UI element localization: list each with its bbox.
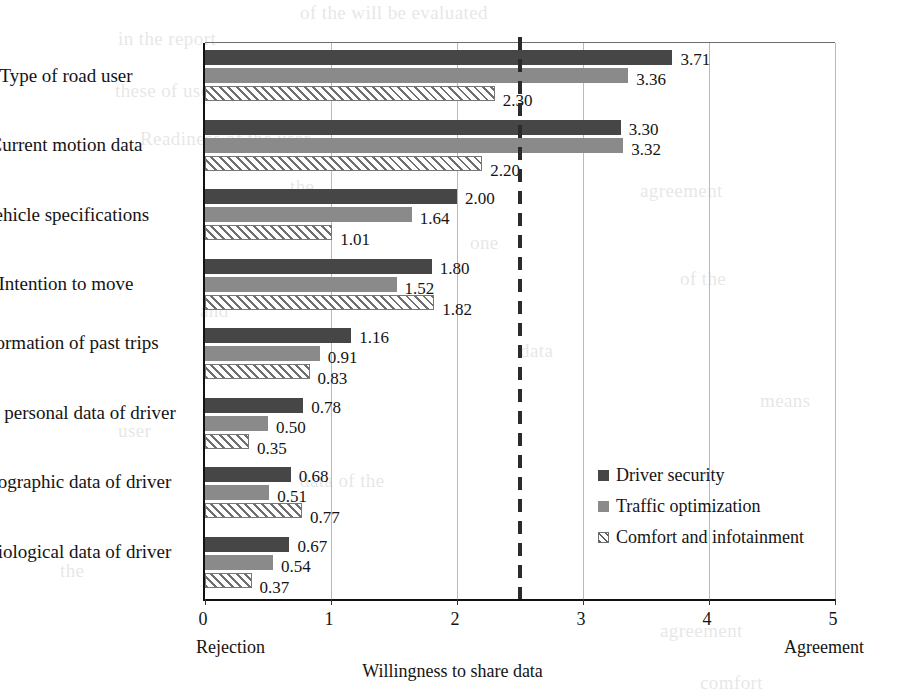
bar-value-label: 1.16	[359, 329, 389, 346]
bar-value-label: 3.30	[629, 121, 659, 138]
x-tick-label: 0	[199, 609, 208, 630]
bar	[205, 189, 457, 204]
legend-swatch-driver-security	[598, 470, 609, 481]
bar	[205, 120, 621, 135]
chart-legend: Driver security Traffic optimization Com…	[598, 460, 868, 553]
category-label: Demographic data of driver	[0, 471, 191, 492]
bar-value-label: 0.68	[299, 468, 329, 485]
bar	[205, 259, 432, 274]
category-label: Physiological data of driver	[0, 541, 191, 562]
bar	[205, 207, 412, 222]
bar-value-label: 0.50	[276, 419, 306, 436]
legend-item: Traffic optimization	[598, 491, 868, 522]
x-tick-label: 2	[451, 609, 460, 630]
bar	[205, 50, 672, 65]
bar	[205, 346, 320, 361]
bar-value-label: 3.71	[680, 51, 710, 68]
axis-tickmark	[457, 599, 458, 605]
bar	[205, 68, 628, 83]
legend-label: Comfort and infotainment	[616, 527, 804, 548]
bar	[205, 467, 291, 482]
legend-item: Comfort and infotainment	[598, 522, 868, 553]
bar-value-label: 0.35	[257, 440, 287, 457]
bar-value-label: 1.64	[420, 210, 450, 227]
category-label: Other personal data of driver	[0, 402, 191, 423]
bar-value-label: 0.83	[318, 370, 348, 387]
bar	[205, 156, 482, 171]
category-label: Vehicle specifications	[0, 204, 191, 225]
axis-tickmark	[331, 599, 332, 605]
bar-value-label: 1.01	[340, 231, 370, 248]
bar-value-label: 0.54	[281, 558, 311, 575]
axis-tickmark	[709, 599, 710, 605]
axis-caption-agreement: Agreement	[784, 637, 864, 658]
legend-item: Driver security	[598, 460, 868, 491]
bar-value-label: 0.67	[297, 538, 327, 555]
legend-label: Traffic optimization	[616, 496, 760, 517]
bar	[205, 537, 289, 552]
bar	[205, 328, 351, 343]
bar	[205, 86, 495, 101]
axis-tickmark	[205, 599, 206, 605]
category-label: Current motion data	[0, 134, 191, 155]
bar-value-label: 2.00	[465, 190, 495, 207]
category-label: Type of road user	[0, 65, 191, 86]
bar	[205, 485, 269, 500]
bar-value-label: 2.20	[490, 162, 520, 179]
x-tick-label: 1	[325, 609, 334, 630]
legend-label: Driver security	[616, 465, 724, 486]
bar-value-label: 1.80	[440, 260, 470, 277]
bar-value-label: 3.36	[636, 71, 666, 88]
bar-value-label: 0.78	[311, 399, 341, 416]
legend-swatch-traffic-optimization	[598, 501, 609, 512]
threshold-reference-line	[518, 37, 522, 599]
x-tick-label: 5	[829, 609, 838, 630]
bar	[205, 416, 268, 431]
x-tick-label: 3	[577, 609, 586, 630]
bar	[205, 434, 249, 449]
axis-caption-rejection: Rejection	[196, 637, 265, 658]
legend-swatch-comfort-infotainment	[598, 532, 609, 543]
bar-value-label: 3.32	[631, 141, 661, 158]
bar	[205, 295, 434, 310]
bar	[205, 138, 623, 153]
bar	[205, 573, 252, 588]
bar-value-label: 0.91	[328, 349, 358, 366]
chart-figure: Type of road userCurrent motion dataVehi…	[0, 0, 905, 699]
bar-value-label: 1.82	[442, 301, 472, 318]
bar	[205, 364, 310, 379]
bar-value-label: 0.37	[260, 579, 290, 596]
bar	[205, 555, 273, 570]
x-axis-title: Willingness to share data	[0, 661, 905, 682]
axis-tickmark	[835, 599, 836, 605]
bar	[205, 503, 302, 518]
x-tick-label: 4	[703, 609, 712, 630]
category-label: Information of past trips	[0, 332, 191, 353]
category-label: Intention to move	[0, 273, 191, 294]
bar-value-label: 0.77	[310, 509, 340, 526]
bar	[205, 277, 397, 292]
axis-tickmark	[583, 599, 584, 605]
bar	[205, 398, 303, 413]
bar	[205, 225, 332, 240]
